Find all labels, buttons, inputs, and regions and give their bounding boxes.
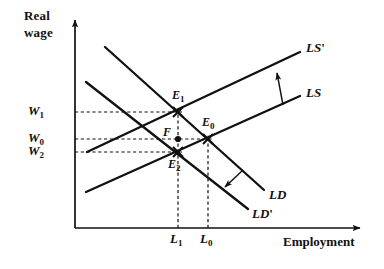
y-tick-w2-base: W	[28, 143, 40, 158]
x-tick-l0: L0	[200, 232, 212, 248]
y-axis-title-line2: wage	[24, 26, 53, 39]
marker-f	[175, 136, 181, 142]
shift-arrows	[225, 73, 283, 187]
curve-label-ls-prime-base: LS	[306, 40, 321, 55]
point-label-e2-base: E	[168, 157, 176, 171]
x-tick-l1: L1	[170, 232, 182, 248]
diagram-canvas	[0, 0, 384, 269]
x-tick-l0-base: L	[200, 231, 208, 246]
point-label-f-base: F	[163, 125, 171, 139]
point-label-e1: E1	[172, 89, 185, 104]
y-tick-w1-sub: 1	[40, 110, 45, 120]
y-tick-w1-base: W	[28, 103, 40, 118]
y-tick-w2-sub: 2	[40, 150, 45, 160]
x-axis-title: Employment	[283, 235, 355, 248]
curve-label-ld-prime-base: LD	[252, 206, 269, 221]
curve-lines	[86, 47, 300, 209]
demand-shift-arrow	[225, 170, 243, 187]
curve-label-ls-prime-mark: '	[321, 40, 325, 55]
supply-shift-arrow	[277, 73, 283, 105]
curve-ld-line	[105, 47, 264, 190]
point-label-e2-sub: 2	[176, 163, 181, 173]
curve-label-ld-base: LD	[269, 187, 286, 202]
point-label-e1-sub: 1	[180, 94, 185, 104]
curve-ls-prime-line	[87, 52, 300, 152]
labor-market-diagram: Real wage Employment W1 W0 W2 L1 L0 LS' …	[0, 0, 384, 269]
curve-label-ld-prime: LD'	[252, 207, 273, 220]
y-axis-title-line1: Real	[24, 9, 50, 22]
curve-label-ld-prime-mark: '	[269, 206, 273, 221]
x-tick-l1-base: L	[170, 231, 178, 246]
curve-label-ls-prime: LS'	[306, 41, 325, 54]
curve-ls-line	[86, 96, 300, 192]
x-tick-l0-sub: 0	[208, 238, 213, 248]
x-tick-l1-sub: 1	[178, 238, 183, 248]
point-label-e0-sub: 0	[210, 121, 215, 131]
curve-ld-prime-line	[86, 82, 248, 209]
point-label-e2: E2	[168, 158, 181, 173]
point-label-e1-base: E	[172, 88, 180, 102]
point-label-f: F	[163, 126, 171, 141]
y-tick-w2: W2	[28, 144, 44, 160]
curve-label-ld: LD	[269, 188, 286, 201]
point-label-e0-base: E	[202, 115, 210, 129]
y-tick-w1: W1	[28, 104, 44, 120]
curve-label-ls-base: LS	[306, 85, 321, 100]
point-label-e0: E0	[202, 116, 215, 131]
curve-label-ls: LS	[306, 86, 321, 99]
